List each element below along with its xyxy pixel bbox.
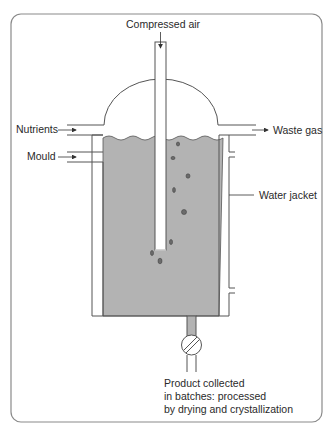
label-nutrients: Nutrients [16,123,58,135]
label-waste-gas: Waste gas [273,124,322,136]
product-outlet-pipe [187,316,196,336]
waste-gas-outlet [218,125,256,135]
product-drain-pipe [187,355,196,372]
label-compressed-air: Compressed air [126,18,201,30]
air-tube [155,42,166,250]
label-product-line2: in batches: processed [164,390,266,402]
label-water-jacket: Water jacket [259,189,317,201]
label-product-line1: Product collected [164,377,245,389]
valve-icon[interactable] [182,335,202,355]
label-mould: Mould [27,150,56,162]
label-product-line3: by drying and crystallization [164,403,293,415]
fermenter-diagram: Compressed air Nutrients Mould Waste gas… [0,0,328,440]
